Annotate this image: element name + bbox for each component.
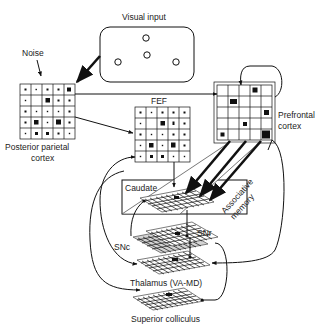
posterior-parietal-cortex-grid xyxy=(20,84,75,139)
fef-grid xyxy=(135,107,190,162)
superior-colliculus-plane xyxy=(133,288,204,310)
basal-ganglia-model-diagram: Visual input Noise Posterior parietal co… xyxy=(0,0,328,330)
prefrontal-cortex-grid xyxy=(214,82,275,143)
stimulus-icon xyxy=(143,35,149,41)
stimulus-icon xyxy=(144,52,150,58)
thalamus-plane xyxy=(137,251,210,274)
noise-label: Noise xyxy=(22,48,44,58)
stimulus-icon xyxy=(115,59,121,65)
pfc-label-line2: cortex xyxy=(278,121,302,131)
caudate-label: Caudate xyxy=(125,183,157,193)
snr-to-sc-connection xyxy=(202,243,227,300)
visual-input: Visual input xyxy=(100,12,194,82)
superior-colliculus-label: Superior colliculus xyxy=(131,314,200,324)
visual-to-ppc-arrow xyxy=(77,56,100,82)
noise: Noise xyxy=(22,48,44,76)
ppc-label-line2: cortex xyxy=(31,153,55,163)
visual-input-label: Visual input xyxy=(122,12,166,22)
pfc-label-line1: Prefrontal xyxy=(278,110,315,120)
thalamus-label: Thalamus (VA-MD) xyxy=(130,278,202,288)
noise-arrow xyxy=(37,60,41,76)
snc-label: SNc xyxy=(114,242,131,252)
ppc-to-fef-arrow xyxy=(75,117,133,133)
snr-label: SNr xyxy=(197,228,212,238)
stimulus-icon xyxy=(173,59,179,65)
fef-label: FEF xyxy=(151,96,167,106)
ppc-label-line1: Posterior parietal xyxy=(5,142,69,152)
